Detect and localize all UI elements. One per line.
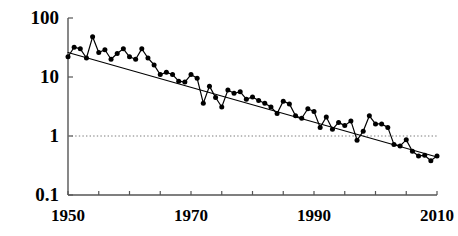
data-point xyxy=(250,94,255,99)
data-point xyxy=(410,149,415,154)
data-point xyxy=(72,45,77,50)
data-point xyxy=(262,101,267,106)
data-point xyxy=(232,91,237,96)
x-tick-label-1970: 1970 xyxy=(161,207,221,224)
data-point xyxy=(133,57,138,62)
data-point xyxy=(145,55,150,60)
data-point xyxy=(115,51,120,56)
data-point xyxy=(127,54,132,59)
data-point xyxy=(225,88,230,93)
data-point xyxy=(121,46,126,51)
x-tick-label-2010: 2010 xyxy=(407,207,458,224)
data-point xyxy=(219,105,224,110)
data-point xyxy=(428,158,433,163)
data-point xyxy=(416,153,421,158)
trend-line xyxy=(68,53,437,158)
data-point xyxy=(336,120,341,125)
data-point xyxy=(213,95,218,100)
series-path-trend xyxy=(68,53,437,158)
x-tick-label-1990: 1990 xyxy=(284,207,344,224)
data-point xyxy=(404,137,409,142)
data-point xyxy=(281,99,286,104)
data-point xyxy=(305,106,310,111)
data-point xyxy=(244,97,249,102)
data-point xyxy=(348,118,353,123)
data-point xyxy=(312,109,317,114)
data-point xyxy=(385,125,390,130)
y-tick-label-1: 1 xyxy=(50,126,60,145)
data-point xyxy=(367,113,372,118)
data-point xyxy=(435,153,440,158)
data-point xyxy=(398,143,403,148)
data-point xyxy=(238,89,243,94)
data-point xyxy=(195,76,200,81)
y-tick-label-100: 100 xyxy=(31,8,60,27)
y-tick-label-10: 10 xyxy=(40,67,59,86)
data-point xyxy=(96,50,101,55)
data-point xyxy=(422,153,427,158)
data-point xyxy=(109,57,114,62)
data-point xyxy=(342,123,347,128)
data-point xyxy=(268,105,273,110)
data-point xyxy=(84,55,89,60)
data-point xyxy=(373,121,378,126)
data-point xyxy=(379,121,384,126)
data-point xyxy=(176,79,181,84)
data-point xyxy=(275,111,280,116)
data-point xyxy=(330,127,335,132)
data-point xyxy=(207,84,212,89)
data-point xyxy=(287,101,292,106)
data-point xyxy=(170,72,175,77)
data-point xyxy=(189,72,194,77)
data-point xyxy=(139,46,144,51)
data-point xyxy=(293,113,298,118)
data-point xyxy=(201,101,206,106)
y-axis-ticks xyxy=(68,18,73,195)
data-point xyxy=(90,34,95,39)
data-point xyxy=(361,129,366,134)
data-point xyxy=(318,125,323,130)
y-tick-label-0.1: 0.1 xyxy=(35,185,59,204)
x-tick-label-1950: 1950 xyxy=(38,207,98,224)
series-markers-observed xyxy=(66,34,440,163)
data-point xyxy=(391,142,396,147)
data-point xyxy=(256,98,261,103)
data-point xyxy=(102,47,107,52)
axis-lines xyxy=(68,18,437,195)
data-point xyxy=(182,80,187,85)
data-point xyxy=(299,116,304,121)
data-point xyxy=(66,54,71,59)
data-point xyxy=(78,46,83,51)
data-point xyxy=(164,70,169,75)
data-point xyxy=(324,114,329,119)
data-point xyxy=(152,62,157,67)
data-point xyxy=(158,72,163,77)
data-point xyxy=(355,138,360,143)
